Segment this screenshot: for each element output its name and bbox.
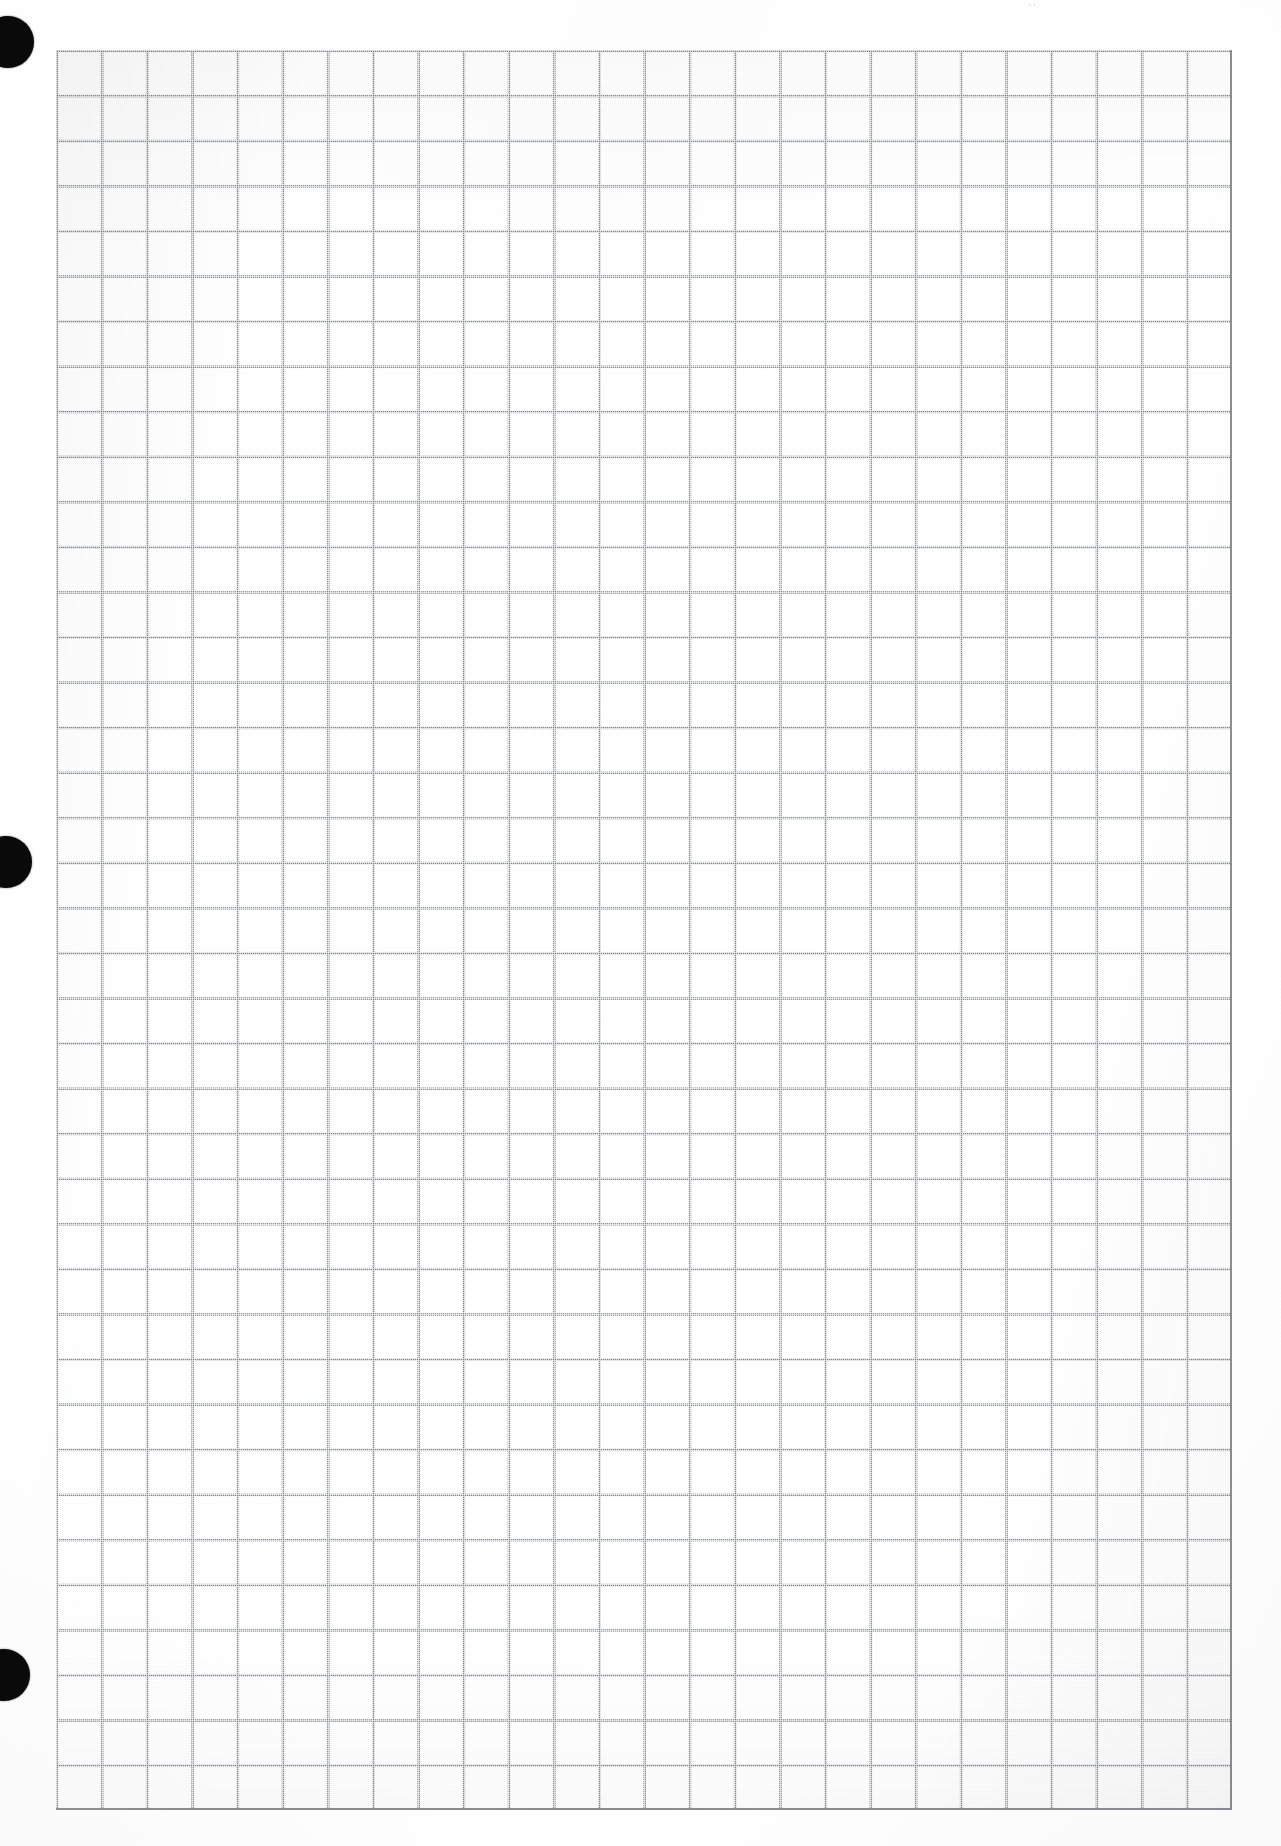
punch-hole-middle bbox=[0, 836, 32, 888]
grid-lines-dither bbox=[56, 50, 1232, 1810]
grid-bottom-rule bbox=[56, 1808, 1232, 1810]
scan-dust-mark: ·· bbox=[1028, 0, 1037, 10]
punch-hole-bottom bbox=[0, 1649, 30, 1701]
punch-hole-top bbox=[0, 16, 34, 68]
scanned-page: ·· bbox=[0, 0, 1281, 1846]
graph-grid bbox=[56, 50, 1232, 1810]
grid-right-rule bbox=[1230, 50, 1232, 1810]
